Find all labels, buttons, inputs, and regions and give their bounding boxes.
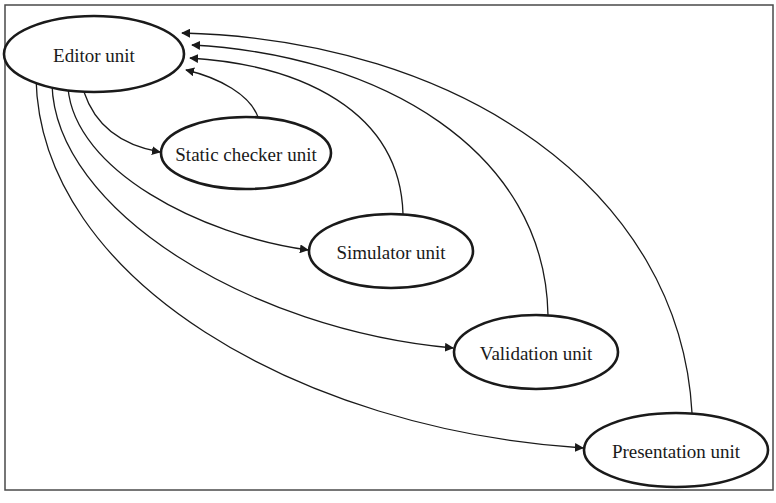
node-validation-unit: Validation unit xyxy=(454,315,618,389)
node-label: Simulator unit xyxy=(336,242,446,263)
node-label: Static checker unit xyxy=(175,144,317,165)
edge-static-checker-to-editor xyxy=(186,70,258,117)
node-editor-unit: Editor unit xyxy=(4,16,184,92)
node-presentation-unit: Presentation unit xyxy=(584,413,768,487)
node-label: Editor unit xyxy=(53,45,136,66)
edge-editor-to-static-checker xyxy=(84,92,160,152)
node-static-checker-unit: Static checker unit xyxy=(161,117,331,189)
node-label: Presentation unit xyxy=(612,441,741,462)
node-label: Validation unit xyxy=(480,343,593,364)
unit-interaction-diagram: Editor unit Static checker unit Simulato… xyxy=(0,0,776,503)
node-simulator-unit: Simulator unit xyxy=(309,214,473,288)
